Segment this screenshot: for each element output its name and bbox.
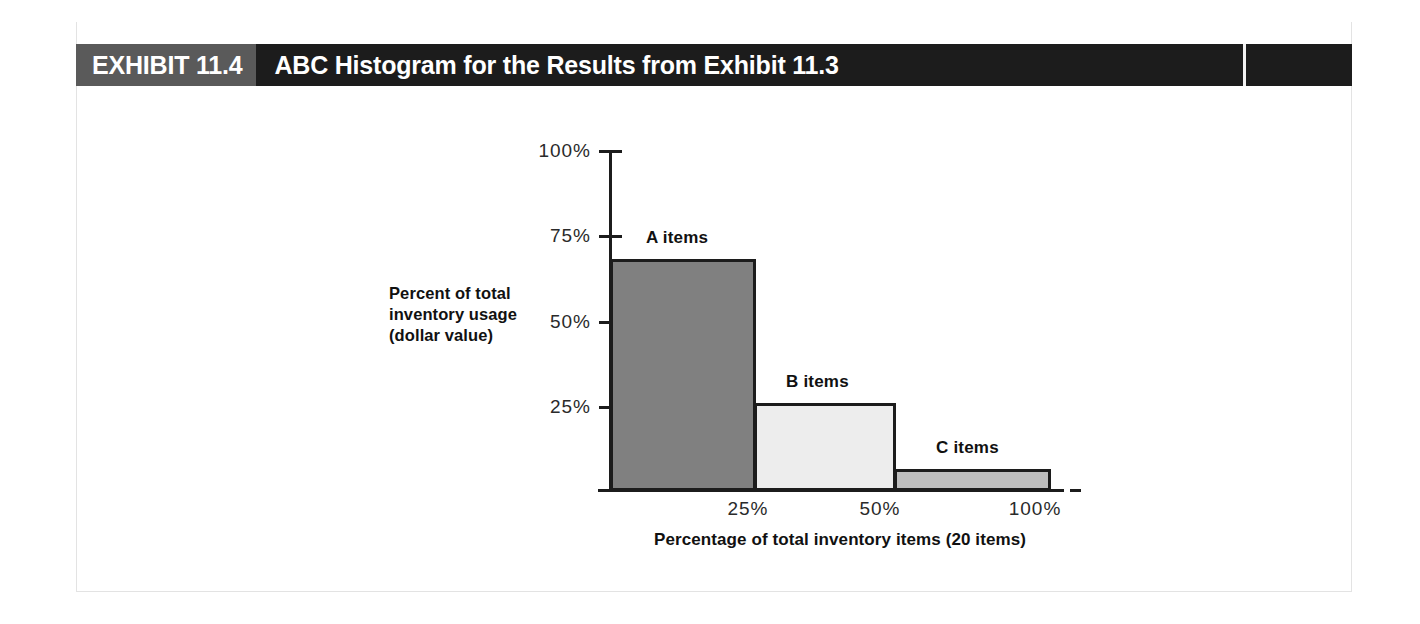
- bar-label-b: B items: [786, 372, 849, 392]
- bar-b-items: [754, 403, 896, 491]
- header-seam-divider: [1243, 44, 1246, 86]
- exhibit-title-text: ABC Histogram for the Results from Exhib…: [274, 51, 838, 80]
- bar-label-c: C items: [936, 438, 999, 458]
- y-tick-label-75: 75%: [501, 225, 591, 247]
- exhibit-number-label: EXHIBIT 11.4: [76, 44, 256, 86]
- exhibit-header-bar: EXHIBIT 11.4 ABC Histogram for the Resul…: [76, 44, 1352, 86]
- x-axis-title: Percentage of total inventory items (20 …: [560, 530, 1120, 550]
- y-tick-label-25: 25%: [501, 396, 591, 418]
- y-tick-label-100: 100%: [501, 140, 591, 162]
- x-tick-label-50: 50%: [820, 498, 940, 520]
- bar-c-items: [894, 469, 1051, 491]
- y-axis-title-line-3: (dollar value): [389, 325, 559, 346]
- y-tick-75: [599, 235, 622, 238]
- x-axis-extension: [1070, 489, 1081, 492]
- exhibit-title: ABC Histogram for the Results from Exhib…: [256, 44, 1352, 86]
- y-axis-title: Percent of total inventory usage (dollar…: [389, 283, 559, 346]
- y-axis-title-line-1: Percent of total: [389, 283, 559, 304]
- y-tick-100: [599, 150, 622, 153]
- x-tick-label-100: 100%: [975, 498, 1095, 520]
- x-tick-label-25: 25%: [688, 498, 808, 520]
- bar-label-a: A items: [646, 228, 708, 248]
- bar-a-items: [610, 259, 756, 491]
- y-axis-title-line-2: inventory usage: [389, 304, 559, 325]
